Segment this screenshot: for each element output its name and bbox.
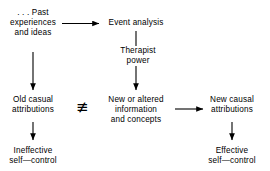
- edge-label-therapist-power-line1: Therapist: [108, 46, 168, 56]
- node-old-casual-attributions-line2: attributions: [0, 105, 66, 115]
- node-effective-self-control-line2: self—control: [199, 156, 265, 166]
- node-past-experiences-line3: and ideas: [0, 28, 66, 38]
- flowchart-diagram: . . . Past experiences and ideas Event a…: [0, 0, 270, 171]
- node-new-causal-attributions-line2: attributions: [199, 105, 265, 115]
- edge-label-therapist-power: Therapist power: [106, 46, 170, 66]
- node-new-or-altered-information-line3: and concepts: [98, 115, 174, 125]
- node-new-or-altered-information: New or altered information and concepts: [98, 95, 174, 126]
- node-ineffective-self-control-line1: Ineffective: [0, 146, 66, 156]
- node-effective-self-control: Effective self—control: [199, 146, 265, 166]
- node-event-analysis: Event analysis: [101, 18, 171, 28]
- node-new-or-altered-information-line2: information: [98, 105, 174, 115]
- node-new-or-altered-information-line1: New or altered: [98, 95, 174, 105]
- not-identical-symbol: ≢: [76, 100, 89, 115]
- node-effective-self-control-line1: Effective: [199, 146, 265, 156]
- node-past-experiences: . . . Past experiences and ideas: [0, 8, 66, 39]
- node-old-casual-attributions: Old casual attributions: [0, 95, 66, 115]
- node-past-experiences-line1: . . . Past: [0, 8, 66, 18]
- node-ineffective-self-control-line2: self—control: [0, 156, 66, 166]
- node-old-casual-attributions-line1: Old casual: [0, 95, 66, 105]
- node-ineffective-self-control: Ineffective self—control: [0, 146, 66, 166]
- edge-label-therapist-power-line2: power: [108, 56, 168, 66]
- node-new-causal-attributions-line1: New causal: [199, 95, 265, 105]
- node-event-analysis-line1: Event analysis: [101, 18, 171, 28]
- node-past-experiences-line2: experiences: [0, 18, 66, 28]
- node-new-causal-attributions: New causal attributions: [199, 95, 265, 115]
